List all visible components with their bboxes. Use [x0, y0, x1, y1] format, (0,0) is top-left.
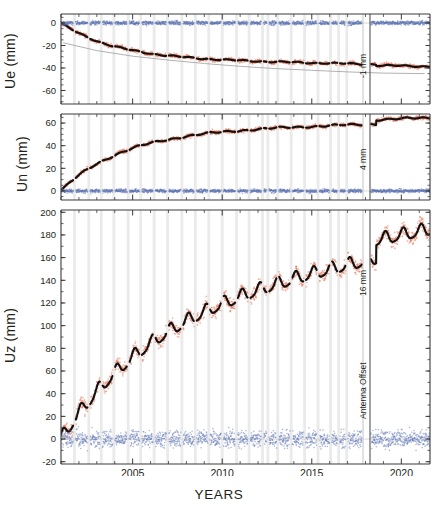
svg-text:40: 40 [45, 140, 56, 151]
svg-text:-20: -20 [42, 456, 56, 467]
x-tick-label: 2020 [390, 467, 414, 476]
chart-figure: { "figure": { "xlabel": "YEARS", "panels… [0, 0, 438, 514]
svg-text:60: 60 [45, 117, 56, 128]
antenna-offset-label: Antenna Offset [358, 362, 368, 419]
uz-offset-label: 16 mm [358, 270, 368, 296]
x-tick-label: 2010 [211, 467, 235, 476]
svg-text:20: 20 [45, 411, 56, 422]
x-tick-label: 2005 [121, 467, 145, 476]
svg-text:-20: -20 [42, 40, 56, 51]
svg-text:120: 120 [40, 297, 56, 308]
un-offset-label: 4 mm [358, 149, 368, 170]
svg-text:100: 100 [40, 320, 56, 331]
svg-text:40: 40 [45, 388, 56, 399]
svg-text:180: 180 [40, 229, 56, 240]
svg-text:0: 0 [51, 17, 56, 28]
svg-text:160: 160 [40, 252, 56, 263]
panel-uz: 200180160140120100806040200-2016 mmAnten… [0, 204, 438, 476]
svg-text:200: 200 [40, 207, 56, 218]
svg-text:140: 140 [40, 275, 56, 286]
panel-ue: 0-20-40-60-1 mm [0, 0, 438, 112]
svg-text:80: 80 [45, 343, 56, 354]
x-axis-title: YEARS [0, 487, 438, 502]
ue-offset-label: -1 mm [358, 54, 368, 78]
svg-text:20: 20 [45, 163, 56, 174]
x-tick-label: 2015 [300, 467, 324, 476]
svg-text:0: 0 [51, 433, 56, 444]
svg-text:60: 60 [45, 365, 56, 376]
panel-un: 60402004 mm [0, 108, 438, 208]
svg-text:-40: -40 [42, 62, 56, 73]
svg-text:-60: -60 [42, 85, 56, 96]
svg-text:0: 0 [51, 185, 56, 196]
